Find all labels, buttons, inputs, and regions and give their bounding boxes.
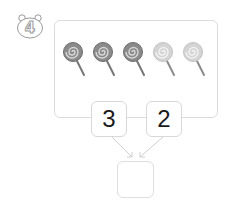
- lollipop-4: [150, 40, 178, 78]
- lollipop-1: [60, 40, 88, 78]
- lollipop-icon: [60, 40, 88, 78]
- answer-box[interactable]: [117, 161, 154, 198]
- lollipop-icon: [180, 40, 208, 78]
- lollipop-icon: [120, 40, 148, 78]
- part-a-box: 3: [91, 101, 127, 137]
- lollipop-2: [90, 40, 118, 78]
- problem-number: 4: [16, 18, 44, 38]
- lollipop-3: [120, 40, 148, 78]
- lollipop-5: [180, 40, 208, 78]
- converging-arrows: [100, 136, 175, 162]
- part-b-box: 2: [146, 101, 182, 137]
- lollipop-icon: [90, 40, 118, 78]
- problem-number-badge: 4: [16, 13, 44, 39]
- lollipop-icon: [150, 40, 178, 78]
- lollipop-row: [60, 40, 210, 80]
